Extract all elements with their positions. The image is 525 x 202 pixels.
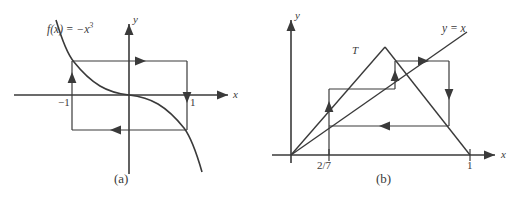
tick-label-one-b: 1 [467,160,473,171]
x-axis-label-b: x [501,149,506,160]
cycle-arrow-right-a [135,57,146,66]
x-axis-a [14,91,228,100]
cobweb-b [329,61,449,155]
cobweb-arrow-up-first-b [325,101,334,112]
diagonal-label-b: y = x [442,23,466,35]
cycle-arrow-up-a [68,72,77,83]
panel-a: f(x) = −x3 x y −1 1 (a) [0,0,262,202]
x-axis-label-a: x [233,89,238,100]
cobweb-arrow-right-top-b [418,57,429,66]
cobweb-arrow-down-right-b [445,89,454,100]
tick-label-one-a: 1 [190,97,196,108]
panel-a-canvas [0,0,262,202]
tick-label-two-sevenths-b: 2/7 [317,160,331,171]
panel-b: y x T y = x 2/7 1 (b) [262,0,525,202]
diagonal-line-b [291,32,467,155]
y-axis-b [287,20,296,163]
cycle-arrow-left-a [110,126,121,135]
y-axis-label-a: y [133,14,138,25]
caption-b: (b) [376,172,391,185]
x-axis-b [272,151,495,160]
y-axis-label-b: y [295,10,300,21]
figure-root: f(x) = −x3 x y −1 1 (a) [0,0,525,202]
function-label-a: f(x) = −x3 [47,22,93,35]
y-axis-a [125,24,134,174]
tent-map-b [291,47,470,155]
cobweb-arrow-left-bottom-b [379,122,390,131]
caption-a: (a) [114,172,128,185]
cobweb-arrow-up-second-b [391,70,400,81]
panel-b-canvas [262,0,525,202]
tick-label-minus-one-a: −1 [58,97,70,108]
map-label-T-b: T [352,45,358,56]
